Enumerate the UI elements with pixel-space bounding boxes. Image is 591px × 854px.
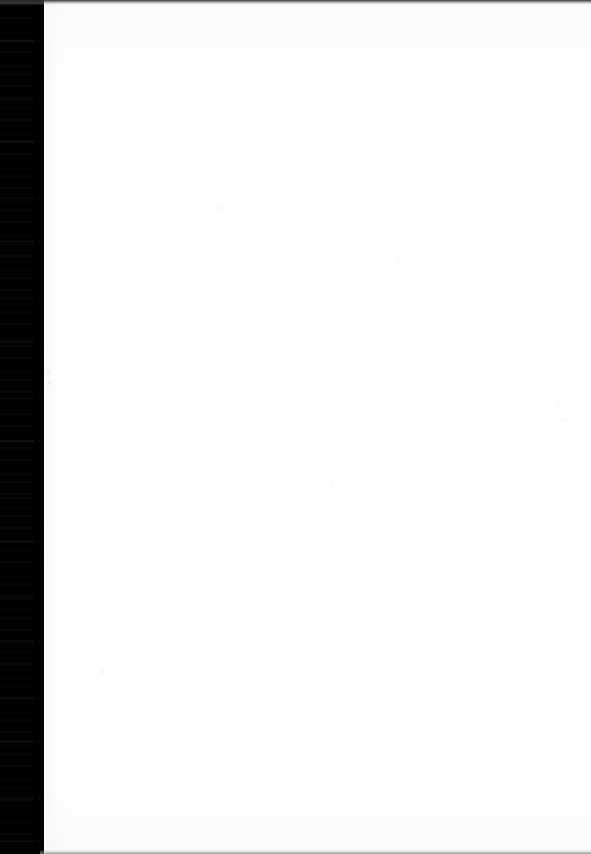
paper-texture	[36, 0, 591, 854]
scanned-page	[0, 0, 591, 854]
page-body	[0, 0, 591, 854]
scanner-gutter	[0, 0, 44, 854]
gutter-scan-streaks	[0, 0, 40, 854]
